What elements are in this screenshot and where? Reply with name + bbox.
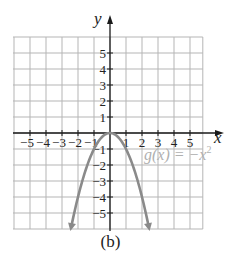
- y-tick-label: −3: [92, 174, 106, 189]
- function-label-text: g(x) = −x: [144, 146, 206, 164]
- y-tick-label: 2: [100, 94, 107, 109]
- function-label-exponent: 2: [206, 144, 211, 155]
- curve-arrow-icon: [144, 222, 152, 231]
- coordinate-plane: −5−4−3−2−11234554321−1−2−3−4−5 x y g(x) …: [0, 0, 231, 257]
- figure-caption: (b): [0, 232, 221, 252]
- y-tick-label: −5: [92, 206, 106, 221]
- y-tick-label: 5: [100, 46, 107, 61]
- y-axis-arrow-icon: [107, 15, 113, 24]
- x-tick-label: −2: [68, 135, 82, 150]
- x-tick-label: −4: [36, 135, 50, 150]
- y-tick-label: −2: [92, 158, 106, 173]
- function-label: g(x) = −x2: [144, 144, 211, 164]
- curve-arrow-icon: [68, 222, 76, 231]
- y-tick-label: 1: [100, 110, 107, 125]
- y-tick-label: −4: [92, 190, 106, 205]
- x-tick-label: −5: [20, 135, 34, 150]
- x-tick-label: −3: [52, 135, 66, 150]
- y-tick-label: 3: [100, 78, 107, 93]
- x-axis-label: x: [213, 128, 222, 147]
- axes: [13, 15, 224, 231]
- y-axis-label: y: [92, 9, 102, 28]
- y-tick-label: 4: [100, 62, 107, 77]
